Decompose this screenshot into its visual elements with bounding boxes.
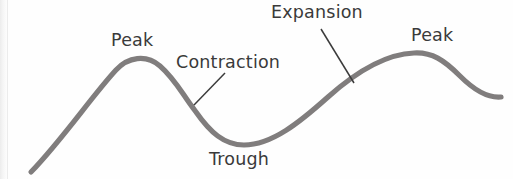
label-trough: Trough	[209, 151, 269, 169]
business-cycle-diagram: Peak Contraction Expansion Peak Trough	[0, 0, 513, 179]
contraction-leader-line	[194, 73, 225, 105]
label-peak-right: Peak	[411, 27, 453, 45]
label-peak-left: Peak	[111, 32, 153, 50]
label-expansion: Expansion	[271, 4, 363, 22]
label-contraction: Contraction	[176, 54, 280, 72]
expansion-leader-line	[321, 29, 354, 83]
